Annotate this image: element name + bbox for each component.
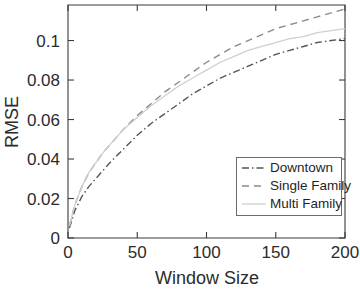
y-tick-label: 0.08 [27, 71, 60, 90]
x-axis-tick-labels: 050100150200 [63, 243, 359, 262]
chart-legend: DowntownSingle FamilyMulti Family [237, 158, 352, 216]
y-tick-label: 0.06 [27, 111, 60, 130]
y-axis-title: RMSE [2, 96, 22, 148]
y-tick-label: 0.02 [27, 190, 60, 209]
x-tick-label: 200 [331, 243, 359, 262]
y-tick-label: 0 [51, 229, 60, 248]
chart-figure: 050100150200 00.020.040.060.080.1 Window… [0, 0, 360, 289]
x-tick-label: 150 [262, 243, 290, 262]
rmse-vs-window-size-chart: 050100150200 00.020.040.060.080.1 Window… [0, 0, 360, 289]
legend-label-multi-family: Multi Family [270, 196, 342, 211]
y-axis-tick-labels: 00.020.040.060.080.1 [27, 32, 60, 248]
y-tick-label: 0.1 [36, 32, 60, 51]
legend-label-single-family: Single Family [270, 178, 351, 193]
x-tick-label: 100 [192, 243, 220, 262]
y-tick-label: 0.04 [27, 150, 60, 169]
legend-label-downtown: Downtown [270, 160, 333, 175]
x-axis-title: Window Size [155, 268, 259, 288]
x-tick-label: 50 [128, 243, 147, 262]
x-tick-label: 0 [63, 243, 72, 262]
